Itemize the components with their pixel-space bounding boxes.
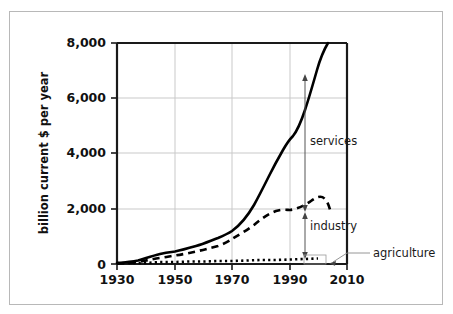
series-label-industry: industry: [310, 219, 357, 233]
figure-container: 8,000 6,000 4,000 2,000 0 1930 1950 1970…: [0, 0, 453, 314]
x-tick-label-1930: 1930: [100, 272, 135, 287]
industry-arrow-head-up: [302, 212, 308, 219]
y-tick-label-6000: 6,000: [66, 90, 106, 105]
x-tick-labels: 1930 1950 1970 1990 2010: [100, 272, 365, 287]
y-axis-title: billion current $ per year: [37, 71, 51, 234]
annotation-industry: industry: [302, 212, 357, 259]
services-arrow-head-up: [302, 74, 308, 81]
y-tick-label-2000: 2,000: [66, 201, 106, 216]
series-industry-line: [117, 197, 330, 264]
agriculture-leader-line: [333, 253, 370, 262]
y-tick-labels: 8,000 6,000 4,000 2,000 0: [66, 35, 106, 272]
annotation-agriculture: agriculture: [304, 246, 435, 266]
x-tick-label-1970: 1970: [215, 272, 250, 287]
line-chart: 8,000 6,000 4,000 2,000 0 1930 1950 1970…: [0, 0, 453, 314]
y-tick-label-4000: 4,000: [66, 145, 106, 160]
series-label-services: services: [310, 134, 357, 148]
y-tick-label-8000: 8,000: [66, 35, 106, 50]
x-tick-label-1950: 1950: [158, 272, 193, 287]
x-tick-label-1990: 1990: [273, 272, 308, 287]
x-tick-label-2010: 2010: [330, 272, 365, 287]
y-tick-label-0: 0: [97, 257, 106, 272]
series-label-agriculture: agriculture: [373, 246, 435, 260]
